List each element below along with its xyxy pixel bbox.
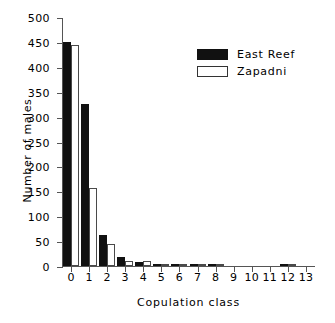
bar-group	[81, 17, 97, 266]
legend-swatch-icon	[197, 66, 228, 77]
y-axis-tick	[57, 43, 62, 44]
bar-zapadni-7	[198, 264, 206, 266]
y-axis-tick-label: 350	[20, 87, 50, 98]
y-axis-tick-label: 400	[20, 62, 50, 73]
y-axis-tick-label: 300	[20, 112, 50, 123]
legend-item: East Reef	[197, 46, 295, 63]
legend-item: Zapadni	[197, 63, 295, 80]
y-axis-tick	[57, 143, 62, 144]
bar-zapadni-12	[288, 264, 296, 266]
y-axis-tick-label: 450	[20, 37, 50, 48]
y-axis-tick-label: 50	[20, 237, 50, 248]
bar-group	[298, 17, 314, 266]
bar-east-reef-3	[117, 257, 125, 266]
bar-east-reef-12	[280, 264, 288, 266]
bar-zapadni-2	[107, 244, 115, 266]
bar-east-reef-7	[190, 264, 198, 266]
legend-label: East Reef	[237, 48, 295, 61]
y-axis-tick	[57, 192, 62, 193]
bar-group	[171, 17, 187, 266]
y-axis-tick	[57, 217, 62, 218]
y-axis-tick	[57, 118, 62, 119]
bar-east-reef-2	[99, 235, 107, 266]
x-axis-title: Copulation class	[52, 296, 325, 309]
bar-zapadni-5	[161, 264, 169, 266]
y-axis-tick-label: 250	[20, 137, 50, 148]
y-axis-tick	[57, 267, 62, 268]
bar-east-reef-8	[208, 264, 216, 266]
bar-zapadni-0	[71, 45, 79, 266]
bar-zapadni-8	[216, 264, 224, 266]
bar-east-reef-5	[153, 264, 161, 266]
y-axis-tick-label: 500	[20, 13, 50, 24]
y-axis-tick	[57, 68, 62, 69]
y-axis-tick-label: 200	[20, 162, 50, 173]
bar-east-reef-4	[135, 262, 143, 266]
bar-group	[153, 17, 169, 266]
y-axis-tick	[57, 242, 62, 243]
bar-zapadni-1	[89, 188, 97, 266]
bar-chart-figure: Number of males 050100150200250300350400…	[0, 0, 335, 323]
y-axis-tick	[57, 167, 62, 168]
bar-east-reef-0	[63, 42, 71, 266]
y-axis-tick-label: 0	[20, 262, 50, 273]
bar-zapadni-6	[179, 264, 187, 266]
bar-zapadni-3	[125, 261, 133, 266]
bar-zapadni-4	[143, 261, 151, 266]
x-axis-line	[62, 266, 315, 267]
chart-legend: East ReefZapadni	[197, 46, 295, 80]
y-axis-tick	[57, 18, 62, 19]
y-axis-tick	[57, 93, 62, 94]
y-axis-tick-labels: 050100150200250300350400450500	[16, 0, 50, 323]
bar-group	[99, 17, 115, 266]
bar-east-reef-6	[171, 264, 179, 266]
bar-group	[135, 17, 151, 266]
bar-group	[117, 17, 133, 266]
y-axis-tick-label: 100	[20, 212, 50, 223]
bar-group	[63, 17, 79, 266]
bar-east-reef-1	[81, 104, 89, 266]
y-axis-tick-label: 150	[20, 187, 50, 198]
x-axis-tick-label: 13	[293, 272, 319, 283]
legend-label: Zapadni	[237, 65, 287, 78]
x-axis-tick-labels: 012345678910111213	[62, 272, 315, 288]
legend-swatch-icon	[197, 49, 228, 60]
